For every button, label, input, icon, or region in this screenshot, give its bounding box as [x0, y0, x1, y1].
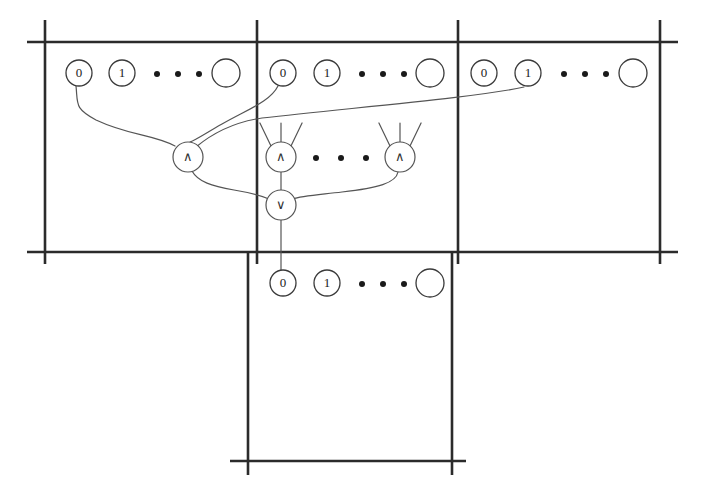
and-gate-left-label: ∧: [183, 149, 193, 164]
cell-bottom-ellipsis-dot-1: [359, 281, 365, 287]
cell-1-node-0-label: 0: [76, 65, 83, 80]
and-gate-mid-open-input-3: [291, 123, 302, 146]
cell-1-node-1-label: 1: [119, 65, 126, 80]
cell-3-ellipsis-dot-2: [582, 71, 588, 77]
gate-ellipsis-dot-2: [338, 155, 344, 161]
and-gate-mid: ∧: [260, 123, 302, 172]
cell-1: 01: [66, 59, 240, 87]
or-gate: ∨: [266, 190, 296, 220]
gates-layer: ∧∧∧∨: [173, 123, 421, 220]
cell-2-node-1-label: 1: [324, 65, 331, 80]
cell-2-ellipsis-dot-1: [359, 71, 365, 77]
or-gate-label: ∨: [276, 197, 286, 212]
cell-3-node-1-label: 1: [525, 65, 532, 80]
cell-bottom-node-1-label: 1: [324, 275, 331, 290]
and-gate-right-label: ∧: [395, 149, 405, 164]
and-gate-right-open-input-1: [379, 123, 390, 146]
cell-3-node-0-label: 0: [481, 65, 488, 80]
cell-3-ellipsis-dot-1: [561, 71, 567, 77]
cell-1-ellipsis-dot-2: [175, 71, 181, 77]
cell-bottom-ellipsis-dot-3: [401, 281, 407, 287]
cell-2-ellipsis-dot-2: [380, 71, 386, 77]
cell-bottom: 01: [270, 269, 444, 297]
cell-3: 01: [471, 59, 647, 87]
and-gate-mid-open-input-1: [260, 123, 271, 146]
cell-2-node-blank[interactable]: [416, 59, 444, 87]
circuit-diagram: ∧∧∧∨ 01010101: [0, 0, 705, 504]
wire-cell1-zero-to-and-left: [76, 86, 175, 146]
cell-2: 01: [270, 59, 444, 87]
cell-bottom-ellipsis-dot-2: [380, 281, 386, 287]
cell-bottom-node-blank[interactable]: [416, 269, 444, 297]
cell-1-ellipsis-dot-1: [154, 71, 160, 77]
and-gate-right-open-input-3: [410, 123, 421, 146]
cell-3-ellipsis-dot-3: [603, 71, 609, 77]
and-gate-left: ∧: [173, 142, 203, 172]
cell-1-ellipsis-dot-3: [196, 71, 202, 77]
gate-ellipsis-dot-3: [363, 155, 369, 161]
gate-ellipsis-dot-1: [313, 155, 319, 161]
wire-cell3-one-to-and-left: [196, 87, 524, 147]
nodes-layer: 01010101: [66, 59, 647, 297]
and-gate-mid-label: ∧: [276, 149, 286, 164]
cell-1-node-blank[interactable]: [212, 59, 240, 87]
cell-2-node-0-label: 0: [280, 65, 287, 80]
cell-bottom-node-0-label: 0: [280, 275, 287, 290]
cell-3-node-blank[interactable]: [619, 59, 647, 87]
wire-and-right-to-or: [293, 172, 398, 199]
circuit-canvas: ∧∧∧∨ 01010101: [0, 0, 705, 504]
frames-layer: [27, 20, 678, 475]
cell-2-ellipsis-dot-3: [401, 71, 407, 77]
and-gate-right: ∧: [379, 123, 421, 172]
